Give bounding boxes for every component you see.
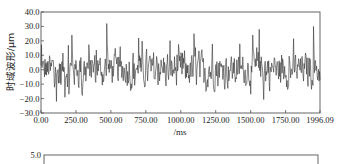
- y-tick-label: −10.0: [20, 79, 40, 89]
- y-tick-label: 0.0: [29, 65, 40, 75]
- y-tick-label: 30.0: [25, 21, 40, 31]
- x-tick-label: 250.00: [64, 115, 87, 125]
- x-tick-label: 1996.09: [306, 115, 334, 125]
- x-tick-label: 750.00: [134, 115, 157, 125]
- chart-canvas: 40.030.020.010.00.0−10.0−20.0−30.0 0.002…: [0, 0, 339, 164]
- x-tick-label: 1250.00: [202, 115, 230, 125]
- bottom-plot-frame: [44, 155, 318, 164]
- y-tick-label: 20.0: [25, 36, 40, 46]
- x-tick-label: 1750.00: [272, 115, 300, 125]
- waveform-line: [41, 24, 320, 102]
- x-tick-label: 0.00: [34, 115, 49, 125]
- x-tick-label: 500.00: [99, 115, 122, 125]
- x-tick-label: 1000.00: [167, 115, 195, 125]
- top-x-axis-title: /ms: [173, 127, 187, 137]
- y-tick-label: 10.0: [25, 50, 40, 60]
- x-tick-label: 1500.00: [237, 115, 265, 125]
- top-x-axis: 0.00250.00500.00750.001000.001250.001500…: [34, 110, 334, 125]
- y-tick-label: −20.0: [20, 94, 40, 104]
- top-y-axis-title: 时域波形/μm: [5, 33, 16, 92]
- y-tick-label: 40.0: [25, 7, 40, 17]
- top-y-axis: 40.030.020.010.00.0−10.0−20.0−30.0: [20, 7, 44, 118]
- bottom-y-tick-label: 5.0: [30, 150, 41, 160]
